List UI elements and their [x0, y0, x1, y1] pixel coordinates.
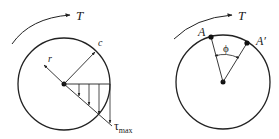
- outer-radius-arrow-icon: [64, 52, 95, 84]
- shaft-cross-section-stress: T c r τmax: [12, 8, 133, 135]
- shaft-cross-section-twist: T A A′ ϕ: [174, 8, 270, 129]
- point-a-label: A: [197, 25, 206, 39]
- radius-label: r: [48, 53, 52, 64]
- point-a-prime-label: A′: [255, 34, 266, 48]
- torque-label: T: [238, 8, 246, 23]
- radius-line-a: [211, 37, 223, 82]
- torsion-diagram: T c r τmax T A A′: [0, 0, 279, 139]
- radius-arrow-icon: [44, 65, 64, 84]
- twist-angle-label: ϕ: [223, 42, 229, 54]
- point-a: [208, 34, 213, 39]
- torque-arrow-icon: [12, 15, 70, 44]
- max-shear-stress-label: τmax: [114, 119, 133, 135]
- point-a-prime: [244, 40, 249, 45]
- outer-radius-label: c: [98, 37, 103, 48]
- twist-angle-arc-icon: [215, 54, 239, 58]
- torque-label: T: [76, 8, 84, 23]
